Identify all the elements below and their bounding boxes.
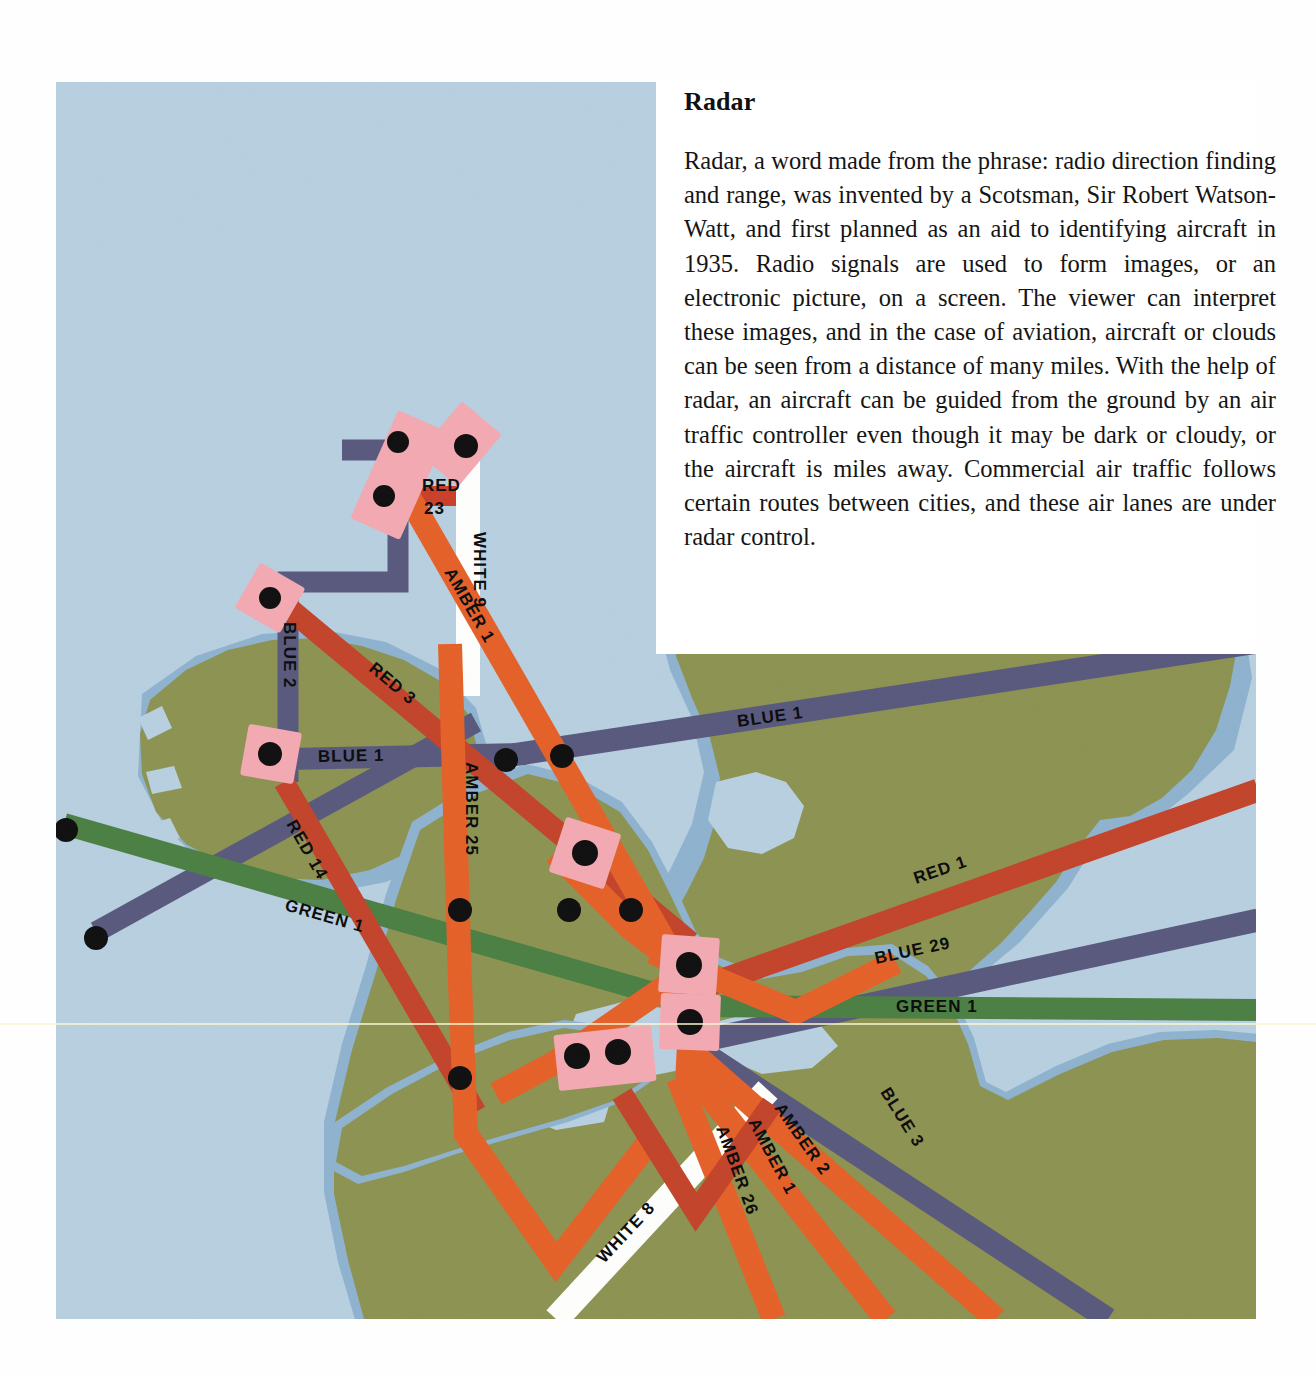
radar-article: Radar Radar, a word made from the phrase… <box>656 82 1256 652</box>
article-body: Radar, a word made from the phrase: radi… <box>684 144 1276 554</box>
article-title: Radar <box>684 87 1256 117</box>
page-root: RED 23 WHITE 9 AMBER 1 BLUE 2 RED 3 BLUE… <box>0 0 1316 1375</box>
